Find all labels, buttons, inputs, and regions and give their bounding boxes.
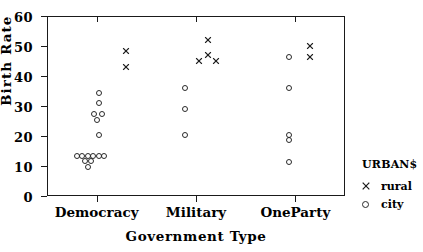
cross-marker — [195, 58, 202, 65]
y-tick-label: 40 — [14, 70, 33, 85]
circle-marker — [182, 106, 188, 112]
circle-marker — [362, 201, 369, 208]
legend: URBAN$ ruralcity — [362, 158, 422, 216]
circle-marker — [94, 117, 100, 123]
cross-marker — [204, 52, 211, 59]
circle-marker — [96, 100, 102, 106]
y-tick-label: 60 — [14, 10, 33, 25]
cross-marker — [212, 58, 219, 65]
circle-marker — [286, 54, 292, 60]
cross-marker — [204, 37, 211, 44]
x-tick-top — [97, 16, 98, 22]
y-tick-label: 0 — [23, 190, 33, 205]
x-tick-bottom — [196, 196, 197, 202]
circle-marker — [286, 159, 292, 165]
plot-area: 0102030405060 DemocracyMilitaryOneParty — [47, 16, 345, 196]
figure-title — [0, 0, 423, 7]
x-tick-top — [196, 16, 197, 22]
y-tick: 10 — [41, 166, 47, 167]
x-tick-label-oneparty: OneParty — [260, 204, 330, 220]
circle-marker — [96, 132, 102, 138]
x-axis-title: Government Type — [47, 228, 345, 244]
circle-marker — [101, 153, 107, 159]
circle-marker — [182, 132, 188, 138]
legend-entries: ruralcity — [362, 180, 422, 210]
legend-label: rural — [381, 180, 412, 193]
y-tick: 0 — [41, 196, 47, 197]
y-axis-title: Birth Rate — [0, 15, 14, 106]
legend-item-rural[interactable]: rural — [362, 180, 422, 192]
legend-item-city[interactable]: city — [362, 198, 422, 210]
y-tick-label: 20 — [14, 130, 33, 145]
x-tick-bottom — [97, 196, 98, 202]
legend-symbol — [362, 201, 376, 208]
circle-marker — [96, 90, 102, 96]
cross-marker — [307, 53, 314, 60]
x-tick-bottom — [295, 196, 296, 202]
y-tick-label: 30 — [14, 100, 33, 115]
y-tick: 50 — [41, 46, 47, 47]
x-tick-label-democracy: Democracy — [55, 204, 139, 220]
cross-marker — [123, 47, 130, 54]
y-tick: 40 — [41, 76, 47, 77]
legend-symbol — [362, 182, 376, 190]
cross-marker — [123, 64, 130, 71]
legend-title: URBAN$ — [362, 158, 422, 171]
y-tick: 60 — [41, 16, 47, 17]
circle-marker — [85, 164, 91, 170]
y-tick-label: 50 — [14, 40, 33, 55]
y-tick: 30 — [41, 106, 47, 107]
x-tick-top — [295, 16, 296, 22]
circle-marker — [182, 85, 188, 91]
legend-label: city — [381, 198, 403, 211]
circle-marker — [286, 85, 292, 91]
circle-marker — [286, 137, 292, 143]
circle-marker — [99, 111, 105, 117]
scatter-plot-figure: Birth Rate 0102030405060 DemocracyMilita… — [0, 0, 423, 252]
cross-marker — [362, 182, 370, 190]
x-tick-label-military: Military — [166, 204, 226, 220]
y-tick-label: 10 — [14, 160, 33, 175]
y-tick: 20 — [41, 136, 47, 137]
cross-marker — [307, 43, 314, 50]
